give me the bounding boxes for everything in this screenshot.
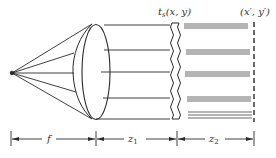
z2-label: z2 xyxy=(208,133,219,146)
observation-plane-label: (x′, y′) xyxy=(240,6,270,17)
focal-length-label: f xyxy=(46,133,53,144)
transparency-label: ts(x, y) xyxy=(158,6,191,19)
transparency xyxy=(171,23,181,119)
optics-diagram: ts(x, y) (x′, y′) f z1 z2 xyxy=(0,0,276,158)
z1-label: z1 xyxy=(127,133,138,146)
diverging-rays xyxy=(12,24,92,119)
point-source xyxy=(10,71,14,75)
collimated-rays xyxy=(96,25,170,119)
diffracted-rays xyxy=(184,24,252,118)
